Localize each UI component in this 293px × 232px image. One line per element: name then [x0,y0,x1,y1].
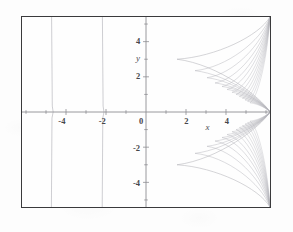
x-tick-label-2: 2 [184,116,188,126]
contour-curve [215,112,270,207]
y-tick-label-4: 4 [136,36,140,46]
x-tick-label-0: 0 [139,116,143,126]
scanned-page-background: y x -4-202442-2-4 [0,0,293,232]
y-axis-label: y [136,53,140,63]
x-axis-label: x [205,122,209,132]
right-contour-family-lower [177,112,270,207]
x-tick-label-neg4: -4 [58,116,65,126]
y-tick-label-neg2: -2 [133,143,140,153]
contour-curve [215,17,270,112]
plot-canvas [22,17,270,207]
figure-frame: y x -4-202442-2-4 [21,16,271,208]
contour-curve [195,17,270,112]
right-contour-family-upper [177,17,270,112]
x-tick-label-4: 4 [225,116,229,126]
y-tick-label-neg4: -4 [133,178,140,188]
x-tick-label-neg2: -2 [99,116,106,126]
y-tick-label-2: 2 [136,71,140,81]
contour-curve [207,112,270,207]
contour-curve [207,17,270,112]
